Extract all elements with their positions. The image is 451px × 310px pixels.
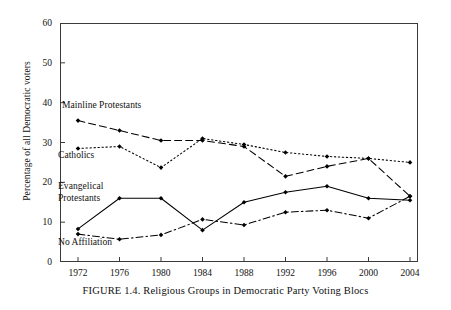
x-tick-label: 2000	[347, 268, 391, 279]
series-catholics	[76, 136, 413, 170]
data-point	[366, 216, 371, 221]
data-point	[117, 144, 122, 149]
x-tick-label: 1988	[222, 268, 266, 279]
figure-caption: FIGURE 1.4. Religious Groups in Democrat…	[0, 285, 451, 296]
x-tick-label: 1980	[139, 268, 183, 279]
data-point	[76, 232, 81, 237]
data-point	[76, 118, 81, 123]
data-point	[408, 198, 413, 203]
data-point	[283, 174, 288, 179]
series-line	[78, 121, 410, 197]
data-point	[283, 210, 288, 215]
x-tick-label: 1984	[181, 268, 225, 279]
data-point	[200, 217, 205, 222]
data-point	[366, 196, 371, 201]
x-tick-label: 1976	[98, 268, 142, 279]
data-point	[283, 150, 288, 155]
data-point	[159, 233, 164, 238]
data-point	[325, 164, 330, 169]
series-label-evangelical-protestants: Evangelical Protestants	[58, 181, 103, 204]
series-mainline-protestants	[76, 118, 413, 198]
data-point	[159, 165, 164, 170]
data-point	[366, 156, 371, 161]
y-tick-label: 0	[28, 257, 52, 267]
plot-area	[60, 23, 418, 262]
data-point	[242, 223, 247, 228]
series-label-no-affiliation: No Affiliation	[58, 237, 112, 249]
y-tick-label: 30	[28, 138, 52, 148]
data-point	[159, 138, 164, 143]
series-label-catholics: Catholics	[58, 150, 94, 162]
plot-frame	[61, 24, 418, 262]
y-tick-label: 60	[28, 18, 52, 28]
x-tick-label: 1996	[305, 268, 349, 279]
x-tick-label: 1992	[264, 268, 308, 279]
data-point	[325, 208, 330, 213]
data-point	[117, 128, 122, 133]
series-label-mainline-protestants: Mainline Protestants	[62, 100, 141, 112]
data-point	[283, 190, 288, 195]
data-point	[408, 160, 413, 165]
x-tick-label: 2004	[388, 268, 432, 279]
y-tick-label: 20	[28, 177, 52, 187]
chart-canvas	[60, 23, 418, 262]
y-tick-label: 40	[28, 98, 52, 108]
x-tick-label: 1972	[56, 268, 100, 279]
data-point	[117, 237, 122, 242]
y-tick-label: 50	[28, 58, 52, 68]
figure-container: Percentage of all Democratic voters 0102…	[0, 0, 451, 310]
series-layer	[76, 118, 413, 241]
data-point	[325, 154, 330, 159]
data-point	[325, 184, 330, 189]
y-tick-label: 10	[28, 217, 52, 227]
